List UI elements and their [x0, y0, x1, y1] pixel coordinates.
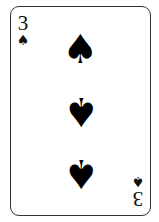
rank-label: 3: [130, 189, 146, 209]
rank-label: 3: [15, 13, 31, 33]
corner-index-bottom-right: 3 ♠: [130, 175, 146, 209]
playing-card-three-of-spades[interactable]: 3 ♠ ♠ ♠ ♠ 3 ♠: [10, 6, 151, 216]
spade-icon: ♠: [61, 154, 101, 194]
spade-icon: ♠: [130, 175, 146, 189]
spade-icon: ♠: [61, 92, 101, 132]
spade-icon: ♠: [15, 33, 31, 47]
spade-icon: ♠: [61, 29, 101, 69]
corner-index-top-left: 3 ♠: [15, 13, 31, 47]
